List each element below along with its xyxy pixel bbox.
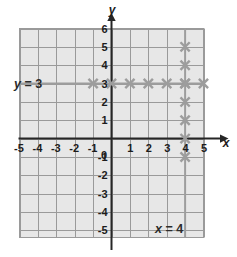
graph-canvas: -5-4-3-2-112345 654321-1-2-3-4-5 0 x y y… [0, 0, 237, 257]
vertical-line-equation-label: x = 4 [154, 222, 183, 236]
y-tick-label: 4 [101, 59, 108, 71]
y-tick-label: -4 [98, 206, 109, 218]
x-tick-label: 5 [201, 142, 207, 154]
y-tick-label: -3 [98, 188, 108, 200]
x-tick-label: -3 [51, 142, 61, 154]
x-tick-label: 2 [146, 142, 152, 154]
y-tick-label: 1 [101, 114, 107, 126]
x-tick-label: 1 [127, 142, 133, 154]
x-tick-label: 3 [164, 142, 170, 154]
horizontal-line-equation-label: y = 3 [13, 77, 42, 91]
horizontal-line-equation-rest: = 3 [21, 77, 42, 91]
coordinate-plane-figure: -5-4-3-2-112345 654321-1-2-3-4-5 0 x y y… [0, 0, 237, 257]
y-tick-label: 3 [101, 78, 107, 90]
x-tick-label: -1 [88, 142, 98, 154]
x-tick-label: -2 [69, 142, 79, 154]
y-tick-label: 6 [101, 23, 107, 35]
y-tick-label: -5 [98, 224, 108, 236]
y-tick-label: 2 [101, 96, 107, 108]
vertical-line-equation-rest: = 4 [162, 222, 183, 236]
x-axis-name-label: x [222, 136, 231, 150]
y-tick-label: 5 [101, 41, 107, 53]
x-tick-label: 4 [183, 142, 190, 154]
y-tick-label: -2 [98, 169, 108, 181]
x-tick-label: -4 [33, 142, 44, 154]
y-axis-name-label: y [108, 3, 117, 17]
origin-tick-label: 0 [101, 149, 107, 161]
x-tick-label: -5 [14, 142, 24, 154]
